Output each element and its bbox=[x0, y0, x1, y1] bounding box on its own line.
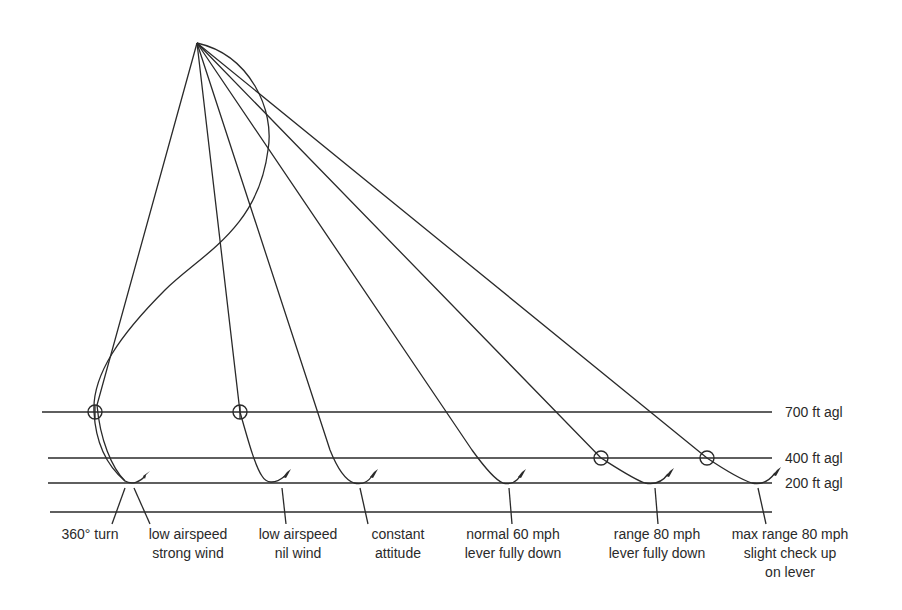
svg-text:attitude: attitude bbox=[375, 545, 421, 561]
svg-text:range 80 mph: range 80 mph bbox=[614, 526, 700, 542]
svg-text:nil wind: nil wind bbox=[275, 545, 322, 561]
caption-low-airspeed-strong-wind: low airspeed strong wind bbox=[149, 526, 228, 561]
svg-text:slight check up: slight check up bbox=[744, 545, 837, 561]
caption-range-80: range 80 mph lever fully down bbox=[609, 526, 706, 561]
path-range-80 bbox=[197, 43, 668, 484]
altitude-label-700: 700 ft agl bbox=[785, 404, 843, 420]
leader-lines bbox=[112, 488, 766, 524]
svg-text:360° turn: 360° turn bbox=[62, 526, 119, 542]
caption-normal-60: normal 60 mph lever fully down bbox=[465, 526, 562, 561]
svg-text:lever fully down: lever fully down bbox=[465, 545, 562, 561]
svg-text:normal 60 mph: normal 60 mph bbox=[466, 526, 559, 542]
caption-constant-attitude: constant attitude bbox=[372, 526, 425, 561]
svg-text:low airspeed: low airspeed bbox=[259, 526, 338, 542]
altitude-label-400: 400 ft agl bbox=[785, 450, 843, 466]
svg-text:low airspeed: low airspeed bbox=[149, 526, 228, 542]
svg-text:strong wind: strong wind bbox=[152, 545, 224, 561]
svg-text:on lever: on lever bbox=[765, 564, 815, 580]
svg-text:max range 80 mph: max range 80 mph bbox=[732, 526, 849, 542]
autorotation-glide-diagram: 700 ft agl 400 ft agl 200 ft agl 360° tu… bbox=[0, 0, 902, 610]
arrow-icons bbox=[143, 467, 781, 479]
caption-low-airspeed-nil-wind: low airspeed nil wind bbox=[259, 526, 338, 561]
path-360-turn bbox=[94, 43, 269, 481]
path-max-range-80 bbox=[197, 43, 775, 483]
path-low-strong-wind bbox=[97, 43, 197, 483]
svg-text:lever fully down: lever fully down bbox=[609, 545, 706, 561]
caption-max-range-80: max range 80 mph slight check up on leve… bbox=[732, 526, 849, 580]
caption-360-turn: 360° turn bbox=[62, 526, 119, 542]
altitude-label-200: 200 ft agl bbox=[785, 475, 843, 491]
path-normal-60 bbox=[197, 43, 520, 484]
svg-text:constant: constant bbox=[372, 526, 425, 542]
